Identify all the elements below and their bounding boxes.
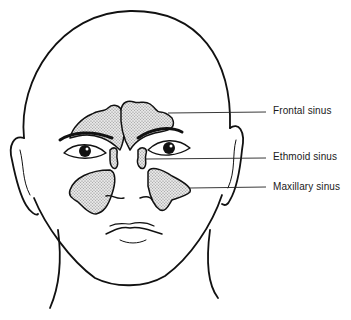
maxillary-sinus-right — [148, 169, 190, 211]
frontal-sinus-left — [70, 105, 124, 150]
face-contour — [34, 195, 222, 285]
nose-right — [140, 197, 152, 200]
mouth — [106, 223, 162, 243]
frontal-sinus-label: Frontal sinus — [273, 105, 332, 116]
right-ear — [222, 126, 243, 205]
neck-right — [208, 230, 218, 298]
ethmoid-sinus-right — [137, 148, 146, 168]
ethmoid-leader-line — [146, 158, 266, 159]
left-eye — [64, 145, 106, 159]
maxillary-sinus-left — [69, 170, 114, 214]
maxillary-sinus-label: Maxillary sinus — [273, 181, 340, 192]
frontal-sinus-right — [121, 101, 174, 150]
ethmoid-sinus-label: Ethmoid sinus — [273, 151, 337, 162]
right-eye — [148, 141, 190, 155]
maxillary-leader-line — [190, 187, 266, 188]
frontal-leader-line — [168, 112, 266, 113]
neck-left — [50, 230, 60, 308]
ethmoid-sinus-left — [110, 148, 118, 168]
